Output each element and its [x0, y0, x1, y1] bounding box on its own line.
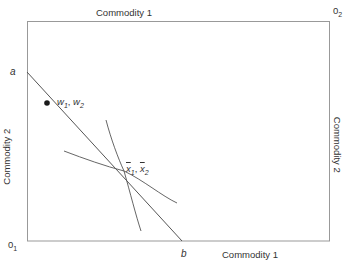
budget-endpoint-label-b: b [181, 249, 187, 259]
budget-endpoint-label-a: a [10, 67, 16, 77]
diagram-canvas [0, 0, 354, 273]
allocation-point-label: x1, x2 [126, 164, 149, 176]
origin-label-1: 01 [8, 240, 17, 252]
endowment-point-label: w1, w2 [57, 97, 84, 109]
budget-line-ab [27, 72, 182, 241]
origin-label-1-sub: 1 [13, 245, 17, 252]
edgeworth-box-figure: Commodity 1 Commodity 1 Commodity 2 Comm… [0, 0, 354, 273]
endowment-point-marker [44, 100, 50, 106]
axis-label-top: Commodity 1 [96, 8, 152, 18]
endowment-base-2: w [73, 96, 80, 107]
indifference-curve-consumer-1 [64, 151, 177, 203]
edgeworth-box-border [28, 22, 330, 242]
axis-label-right: Commodity 2 [332, 115, 342, 175]
endowment-sub-2: 2 [80, 102, 84, 109]
axis-label-left: Commodity 2 [2, 127, 12, 187]
axis-label-bottom: Commodity 1 [222, 250, 278, 260]
endowment-base-1: w [57, 96, 64, 107]
origin-label-2: 02 [333, 6, 342, 18]
allocation-sub-2: 2 [145, 169, 149, 176]
origin-label-2-sub: 2 [338, 11, 342, 18]
